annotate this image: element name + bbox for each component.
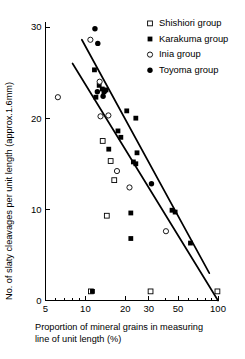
series-inia-group bbox=[55, 37, 168, 234]
legend-marker-open-square-icon bbox=[148, 21, 153, 26]
data-point bbox=[95, 89, 100, 94]
legend-item: Karakuma group bbox=[148, 33, 229, 44]
x-tick-label: 30 bbox=[143, 303, 154, 314]
legend-marker-filled-square-icon bbox=[148, 37, 153, 42]
y-axis-title: No. of slaty cleavages per unit length (… bbox=[4, 82, 14, 300]
data-point bbox=[127, 185, 132, 190]
data-point bbox=[118, 135, 123, 140]
series-toyoma-group bbox=[92, 26, 154, 186]
data-point bbox=[163, 229, 168, 234]
series-karakuma-group bbox=[90, 67, 193, 293]
y-tick-label: 30 bbox=[31, 21, 42, 32]
scatter-plot: 0102030 510203050100 Shishiori groupKara… bbox=[0, 0, 245, 359]
data-point bbox=[108, 159, 113, 164]
data-point bbox=[128, 236, 133, 241]
data-point bbox=[148, 289, 153, 294]
data-point bbox=[102, 88, 107, 93]
data-point bbox=[98, 114, 103, 119]
data-point bbox=[95, 41, 100, 46]
legend-item: Inia group bbox=[147, 48, 200, 59]
x-axis-title-line1: Proportion of mineral grains in measurin… bbox=[35, 322, 203, 332]
legend: Shishiori groupKarakuma groupInia groupT… bbox=[147, 17, 228, 75]
data-point bbox=[106, 147, 111, 152]
x-tick-label: 50 bbox=[173, 303, 184, 314]
legend-label: Toyoma group bbox=[159, 64, 218, 75]
data-point bbox=[112, 178, 117, 183]
data-point bbox=[133, 161, 138, 166]
legend-label: Shishiori group bbox=[159, 17, 222, 28]
x-tick-label: 5 bbox=[43, 303, 48, 314]
data-point bbox=[106, 113, 111, 118]
y-tick-group: 0102030 bbox=[31, 21, 50, 306]
data-point bbox=[173, 210, 178, 215]
data-point bbox=[215, 289, 220, 294]
y-tick-label: 20 bbox=[31, 113, 42, 124]
x-tick-group: 510203050100 bbox=[43, 296, 226, 314]
data-point bbox=[55, 95, 60, 100]
data-point bbox=[90, 289, 95, 294]
data-point bbox=[116, 129, 121, 134]
data-point bbox=[100, 94, 105, 99]
data-point bbox=[100, 139, 105, 144]
data-point bbox=[88, 37, 93, 42]
x-tick-label: 20 bbox=[120, 303, 131, 314]
regression-lines-group bbox=[73, 40, 218, 301]
y-tick-label: 10 bbox=[31, 204, 42, 215]
data-point bbox=[128, 211, 133, 216]
data-point bbox=[104, 213, 109, 218]
y-tick-label: 0 bbox=[36, 295, 41, 306]
x-axis-title-line2: line of unit length (%) bbox=[35, 334, 121, 344]
legend-item: Toyoma group bbox=[147, 64, 218, 75]
data-point bbox=[133, 116, 138, 121]
legend-marker-open-circle-icon bbox=[147, 52, 152, 57]
legend-label: Karakuma group bbox=[159, 33, 228, 44]
data-point bbox=[114, 168, 119, 173]
data-point bbox=[92, 67, 97, 72]
legend-label: Inia group bbox=[159, 48, 201, 59]
data-point bbox=[92, 26, 97, 31]
data-point bbox=[124, 108, 129, 113]
data-point bbox=[188, 241, 193, 246]
legend-marker-filled-circle-icon bbox=[147, 68, 152, 73]
data-point bbox=[97, 79, 102, 84]
data-point bbox=[135, 150, 140, 155]
x-tick-label: 100 bbox=[210, 303, 226, 314]
data-point bbox=[94, 95, 99, 100]
figure-container: 0102030 510203050100 Shishiori groupKara… bbox=[0, 0, 245, 359]
x-tick-label: 10 bbox=[80, 303, 91, 314]
legend-item: Shishiori group bbox=[148, 17, 222, 28]
data-point bbox=[149, 181, 154, 186]
